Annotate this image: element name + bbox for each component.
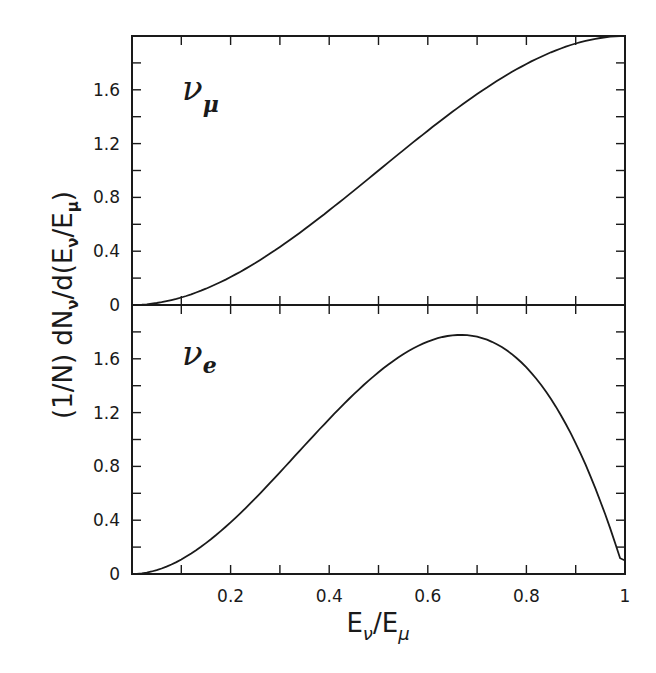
x-tick-label: 0.6	[414, 586, 441, 606]
y-tick-label: 0.8	[93, 456, 120, 476]
x-tick-label: 0.4	[316, 586, 343, 606]
panel-label-nu-e: νe	[182, 333, 217, 378]
y-axis-title: (1/N) dNν/d(Eν/Eμ)	[48, 191, 82, 419]
y-tick-label: 1.6	[93, 80, 120, 100]
top-panel-nu-mu: 00.40.81.21.6	[93, 36, 625, 315]
x-tick-label: 1	[620, 586, 631, 606]
x-tick-label: 0.2	[217, 586, 244, 606]
x-tick-label: 0.8	[513, 586, 540, 606]
y-tick-label: 0.8	[93, 187, 120, 207]
y-tick-label: 0	[109, 295, 120, 315]
bottom-panel-nu-e: 00.40.81.21.60.20.40.60.81	[93, 305, 630, 606]
y-tick-label: 0	[109, 564, 120, 584]
y-tick-label: 1.2	[93, 403, 120, 423]
y-tick-label: 0.4	[93, 510, 120, 530]
nu-mu-curve	[132, 36, 625, 305]
y-tick-label: 1.6	[93, 349, 120, 369]
panel-label-nu-mu: νμ	[182, 68, 219, 117]
neutrino-spectra-figure: 00.40.81.21.6 00.40.81.21.60.20.40.60.81…	[0, 0, 656, 673]
x-axis-title: Eν/Eμ	[346, 608, 409, 644]
y-tick-label: 1.2	[93, 134, 120, 154]
plot-frame	[132, 305, 625, 574]
y-tick-label: 0.4	[93, 241, 120, 261]
